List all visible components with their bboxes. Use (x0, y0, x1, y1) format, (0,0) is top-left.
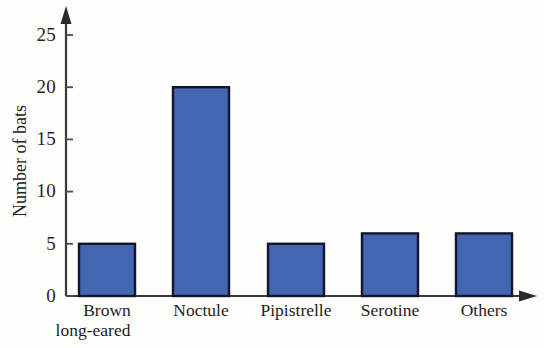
y-tick-label-25: 25 (16, 25, 56, 44)
x-category-label-serotine: Serotine (340, 301, 440, 320)
x-category-label-others: Others (434, 301, 534, 320)
bar-others (456, 233, 512, 296)
x-axis-arrowhead (519, 291, 537, 302)
x-category-label-brown-long-eared: Brown long-eared (57, 301, 157, 339)
y-axis-title: Number of bats (11, 81, 29, 241)
bar-noctule (173, 87, 229, 296)
y-axis-arrowhead (61, 6, 72, 24)
bars-group (79, 87, 512, 296)
x-category-label-line1: Brown (83, 300, 131, 320)
y-tick-label-0: 0 (16, 286, 56, 305)
chart-plot-area: 25 20 15 10 5 0 Number of bats Brown lon… (0, 0, 544, 348)
x-category-label-line2: long-eared (43, 321, 143, 340)
bar-brown-long-eared (79, 244, 135, 296)
bar-chart-screenshot: 25 20 15 10 5 0 Number of bats Brown lon… (0, 0, 544, 348)
bar-serotine (362, 233, 418, 296)
x-category-label-noctule: Noctule (151, 301, 251, 320)
bar-pipistrelle (268, 244, 324, 296)
x-category-label-pipistrelle: Pipistrelle (240, 301, 352, 320)
chart-svg (0, 0, 544, 348)
